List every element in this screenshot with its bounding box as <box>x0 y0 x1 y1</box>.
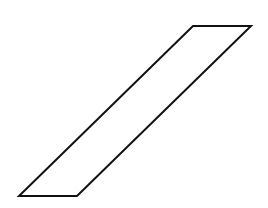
diagram-canvas <box>0 0 268 208</box>
parallelogram-shape <box>19 26 251 196</box>
